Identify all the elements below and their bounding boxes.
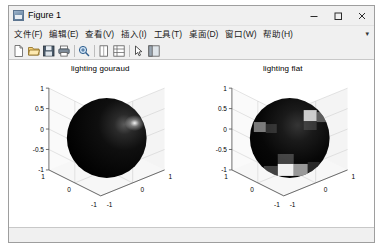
axes-flat[interactable]: 1 0.5 0 -0.5 -1 xyxy=(192,74,375,212)
subplot-title-flat: lighting flat xyxy=(192,64,375,73)
menu-edit[interactable]: 编辑(E) xyxy=(49,26,78,42)
z-tick-05: 0.5 xyxy=(217,105,226,112)
data-cursor-icon[interactable] xyxy=(97,44,111,58)
x-tick-0: 0 xyxy=(323,186,327,193)
edit-plot-arrow-icon[interactable] xyxy=(132,44,146,58)
menu-bar: 文件(F) 编辑(E) 查看(V) 插入(I) 工具(T) 桌面(D) 窗口(W… xyxy=(9,26,374,42)
specular-highlight-gouraud xyxy=(125,115,145,131)
subplot-flat: lighting flat xyxy=(192,60,375,227)
menu-window[interactable]: 窗口(W) xyxy=(225,26,256,42)
x-tick-0: 0 xyxy=(141,186,145,193)
title-bar: Figure 1 xyxy=(9,6,374,26)
y-tick-0: 0 xyxy=(67,186,71,193)
z-tick-1: 1 xyxy=(223,85,227,92)
menu-insert[interactable]: 插入(I) xyxy=(121,26,147,42)
menu-tools[interactable]: 工具(T) xyxy=(154,26,182,42)
z-tick-0: 0 xyxy=(40,126,44,133)
save-figure-icon[interactable] xyxy=(42,44,56,58)
close-icon[interactable] xyxy=(350,6,374,25)
menu-view[interactable]: 查看(V) xyxy=(85,26,114,42)
zoom-in-icon[interactable] xyxy=(77,44,91,58)
y-tick-1: 1 xyxy=(224,173,228,180)
y-tick-1: 1 xyxy=(41,173,45,180)
minimize-icon[interactable] xyxy=(302,6,326,25)
axes-gouraud[interactable]: 1 0.5 0 -0.5 -1 1 0 -1 -1 0 1 xyxy=(9,74,192,212)
maximize-icon[interactable] xyxy=(326,6,350,25)
y-tick-n1: -1 xyxy=(273,201,279,208)
y-tick-0: 0 xyxy=(250,186,254,193)
z-tick-n05: -0.5 xyxy=(33,146,45,153)
open-file-icon[interactable] xyxy=(27,44,41,58)
tool-bar xyxy=(9,42,374,60)
menu-file[interactable]: 文件(F) xyxy=(14,26,42,42)
y-tick-n1: -1 xyxy=(91,201,97,208)
insert-legend-icon[interactable] xyxy=(112,44,126,58)
z-tick-n05: -0.5 xyxy=(215,146,227,153)
z-tick-05: 0.5 xyxy=(35,105,44,112)
subplot-gouraud: lighting gouraud xyxy=(9,60,192,227)
show-plot-tools-icon[interactable] xyxy=(147,44,161,58)
z-tick-1: 1 xyxy=(40,85,44,92)
menu-overflow-chevron-icon[interactable]: ▾ xyxy=(365,26,369,42)
new-figure-icon[interactable] xyxy=(12,44,26,58)
menu-help[interactable]: 帮助(H) xyxy=(263,26,292,42)
x-tick-1: 1 xyxy=(169,173,173,180)
x-tick-n1: -1 xyxy=(107,201,113,208)
print-figure-icon[interactable] xyxy=(57,44,71,58)
window-title: Figure 1 xyxy=(28,6,61,25)
menu-desktop[interactable]: 桌面(D) xyxy=(189,26,218,42)
status-bar xyxy=(9,227,374,242)
sphere-surface-gouraud xyxy=(67,98,147,178)
matlab-figure-icon xyxy=(13,10,24,21)
z-tick-0: 0 xyxy=(223,126,227,133)
x-tick-1: 1 xyxy=(351,173,355,180)
figure-canvas[interactable]: lighting gouraud xyxy=(9,60,374,227)
subplot-title-gouraud: lighting gouraud xyxy=(9,64,192,73)
x-tick-n1: -1 xyxy=(289,201,295,208)
figure-window: Figure 1 文件(F) 编辑(E) 查看(V) 插入(I) 工具(T) 桌… xyxy=(8,5,375,243)
window-controls xyxy=(302,6,374,25)
